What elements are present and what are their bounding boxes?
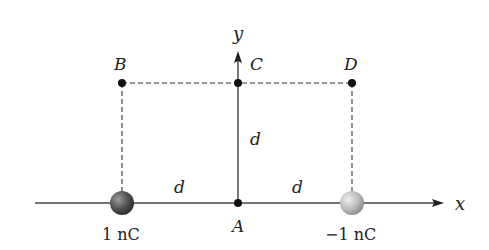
electric-charges-diagram: y x B C D A d d d 1 nC −1 nC [0, 0, 489, 250]
distance-left-label: d [174, 177, 185, 197]
negative-charge-label: −1 nC [325, 225, 376, 244]
point-a-dot [234, 199, 242, 207]
point-b-label: B [113, 54, 127, 74]
y-axis [234, 51, 242, 203]
point-d-dot [348, 79, 356, 87]
distance-right-label: d [292, 177, 303, 197]
negative-charge-sphere [340, 191, 364, 215]
point-c-dot [234, 79, 242, 87]
positive-charge-sphere [110, 191, 134, 215]
positive-charge-label: 1 nC [102, 225, 140, 244]
distance-vertical-label: d [250, 129, 261, 149]
x-axis-label: x [455, 193, 465, 214]
point-b-dot [118, 79, 126, 87]
point-c-label: C [250, 54, 263, 74]
dashed-rectangle [122, 83, 352, 192]
point-d-label: D [343, 54, 358, 74]
y-axis-label: y [232, 23, 244, 44]
point-a-label: A [230, 216, 244, 236]
